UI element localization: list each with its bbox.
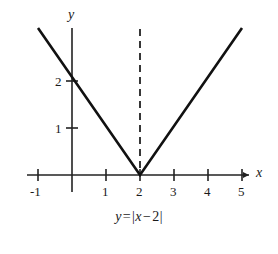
x-tick-label-1: 1 [102,185,109,198]
y-tick-label-2: 2 [55,75,62,88]
x-tick-label-neg1: -1 [30,185,41,198]
x-tick-label-2: 2 [136,185,143,198]
x-tick-label-5: 5 [238,185,245,198]
x-tick-label-4: 4 [204,185,211,198]
x-tick-label-3: 3 [170,185,177,198]
caption-bar-close: | [160,209,163,224]
caption-variable: x [135,209,142,224]
caption-minus: − [142,209,152,224]
caption-constant: 2 [152,209,159,224]
y-tick-label-1: 1 [55,122,62,135]
x-axis-label: x [256,166,262,180]
y-axis-label: y [68,8,74,22]
absolute-value-graph-figure: y x -1 1 2 3 4 5 1 2 y=|x−2| [0,0,278,254]
caption-equals: = [122,209,132,224]
caption-lhs: y [115,209,122,224]
x-axis-arrow-icon [243,172,249,178]
figure-caption: y=|x−2| [0,209,278,225]
